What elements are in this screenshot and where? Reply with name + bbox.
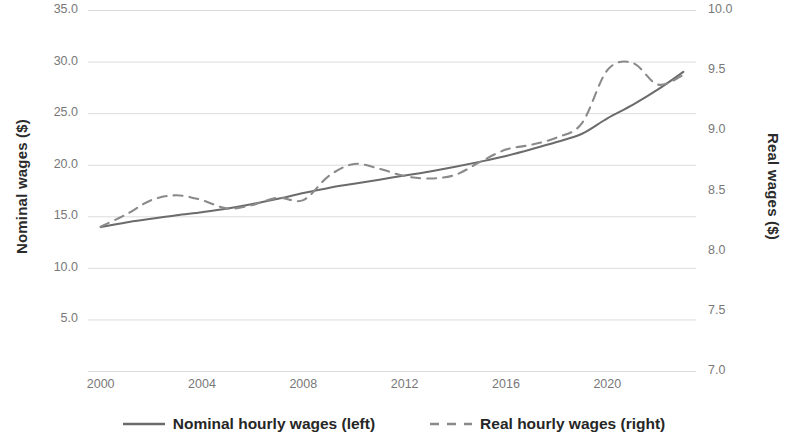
x-axis-tick-label: 2008 (273, 377, 333, 391)
x-axis-tick-label: 2016 (476, 377, 536, 391)
x-axis-tick-label: 2004 (172, 377, 232, 391)
x-axis-tick-label: 2000 (71, 377, 131, 391)
y-axis-left-tick-label: 10.0 (36, 260, 78, 274)
y-axis-right-tick-label: 8.5 (708, 183, 750, 197)
y-axis-right-title: Real wages ($) (765, 82, 782, 292)
y-axis-left-tick-label: 30.0 (36, 54, 78, 68)
y-axis-right-tick-label: 9.0 (708, 122, 750, 136)
y-axis-right-tick-label: 9.5 (708, 62, 750, 76)
legend-item[interactable]: Real hourly wages (right) (429, 415, 665, 433)
y-axis-right-tick-label: 7.0 (708, 363, 750, 377)
plot-area (88, 10, 696, 371)
y-axis-right-tick-label: 10.0 (708, 2, 750, 16)
chart-legend: Nominal hourly wages (left)Real hourly w… (0, 415, 787, 433)
x-axis-tick-label: 2012 (375, 377, 435, 391)
legend-item-label: Nominal hourly wages (left) (173, 415, 375, 433)
y-axis-right-tick-label: 8.0 (708, 243, 750, 257)
solid-line-swatch-icon (122, 418, 166, 430)
plot-svg (88, 10, 696, 373)
y-axis-left-tick-label: 25.0 (36, 105, 78, 119)
real-wages-line (101, 62, 684, 227)
y-axis-right-tick-label: 7.5 (708, 303, 750, 317)
x-axis-tick-label: 2020 (577, 377, 637, 391)
y-axis-left-tick-label: 20.0 (36, 157, 78, 171)
dashed-line-swatch-icon (429, 418, 473, 430)
y-axis-left-tick-label: 35.0 (36, 2, 78, 16)
y-axis-left-title: Nominal wages ($) (13, 82, 30, 292)
legend-item[interactable]: Nominal hourly wages (left) (122, 415, 375, 433)
y-axis-left-tick-label: 5.0 (36, 311, 78, 325)
y-axis-left-tick-label: 15.0 (36, 208, 78, 222)
wages-line-chart: Nominal wages ($) Real wages ($) 5.010.0… (0, 0, 787, 445)
legend-item-label: Real hourly wages (right) (480, 415, 665, 433)
